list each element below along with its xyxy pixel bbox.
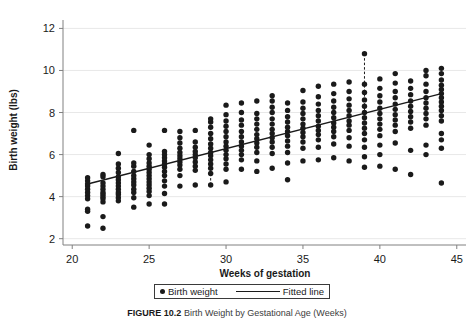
data-point bbox=[100, 225, 105, 230]
figure-container: 24681012 202530354045 Birth weight (lbs)… bbox=[0, 0, 474, 319]
data-point bbox=[269, 116, 274, 121]
data-point bbox=[423, 73, 428, 78]
legend-item-fitted-line: Fitted line bbox=[236, 287, 324, 297]
data-point bbox=[300, 88, 305, 93]
y-axis-label: Birth weight (lbs) bbox=[8, 89, 19, 171]
data-point bbox=[269, 98, 274, 103]
data-point bbox=[85, 175, 90, 180]
data-point bbox=[393, 117, 398, 122]
legend-line-icon bbox=[236, 291, 280, 292]
data-point bbox=[393, 71, 398, 76]
data-point bbox=[408, 92, 413, 97]
data-point bbox=[316, 101, 321, 106]
data-point bbox=[146, 201, 151, 206]
y-tick-2: 2 bbox=[49, 233, 55, 245]
data-point bbox=[239, 134, 244, 139]
y-tick-8: 8 bbox=[49, 107, 55, 119]
x-tick-20: 20 bbox=[66, 253, 78, 265]
data-point bbox=[346, 89, 351, 94]
y-axis-ticks: 24681012 bbox=[43, 22, 63, 244]
data-point bbox=[408, 172, 413, 177]
data-point bbox=[100, 172, 105, 177]
data-point bbox=[269, 110, 274, 115]
data-point bbox=[393, 140, 398, 145]
data-point bbox=[131, 204, 136, 209]
y-tick-12: 12 bbox=[43, 22, 55, 34]
data-point bbox=[223, 102, 228, 107]
data-point bbox=[423, 68, 428, 73]
data-point bbox=[377, 76, 382, 81]
data-point bbox=[146, 142, 151, 147]
data-point bbox=[423, 106, 428, 111]
data-point bbox=[131, 160, 136, 165]
x-axis-label: Weeks of gestation bbox=[220, 268, 311, 279]
data-point bbox=[362, 145, 367, 150]
data-point bbox=[408, 148, 413, 153]
data-point bbox=[131, 195, 136, 200]
data-point bbox=[162, 201, 167, 206]
data-point bbox=[393, 80, 398, 85]
data-point bbox=[316, 94, 321, 99]
data-point bbox=[85, 223, 90, 228]
data-point bbox=[393, 95, 398, 100]
data-point bbox=[193, 145, 198, 150]
data-point bbox=[423, 122, 428, 127]
data-point bbox=[300, 139, 305, 144]
data-point bbox=[254, 150, 259, 155]
data-point bbox=[393, 129, 398, 134]
caption-label: FIGURE 10.2 bbox=[127, 308, 181, 318]
data-point bbox=[223, 118, 228, 123]
chart-legend: Birth weight Fitted line bbox=[154, 284, 330, 299]
data-point bbox=[223, 134, 228, 139]
data-point bbox=[331, 105, 336, 110]
y-tick-6: 6 bbox=[49, 149, 55, 161]
data-point bbox=[285, 177, 290, 182]
data-point bbox=[269, 121, 274, 126]
axis-lines bbox=[63, 20, 466, 245]
data-point bbox=[346, 118, 351, 123]
data-point bbox=[377, 116, 382, 121]
x-tick-30: 30 bbox=[220, 253, 232, 265]
data-point bbox=[177, 183, 182, 188]
data-point bbox=[346, 158, 351, 163]
data-point bbox=[423, 116, 428, 121]
data-point bbox=[285, 119, 290, 124]
data-point bbox=[85, 207, 90, 212]
data-point bbox=[362, 120, 367, 125]
legend-label-birth-weight: Birth weight bbox=[168, 287, 218, 297]
data-point bbox=[346, 108, 351, 113]
data-point bbox=[223, 179, 228, 184]
data-point bbox=[423, 142, 428, 147]
data-point bbox=[177, 129, 182, 134]
data-point bbox=[193, 128, 198, 133]
gridlines bbox=[63, 28, 466, 238]
data-point bbox=[208, 125, 213, 130]
data-point bbox=[116, 151, 121, 156]
data-point bbox=[285, 160, 290, 165]
data-point bbox=[393, 107, 398, 112]
data-point bbox=[162, 128, 167, 133]
x-axis-ticks: 202530354045 bbox=[66, 245, 463, 265]
data-point bbox=[254, 98, 259, 103]
data-point bbox=[285, 100, 290, 105]
data-point bbox=[223, 112, 228, 117]
data-point bbox=[239, 157, 244, 162]
data-point bbox=[269, 105, 274, 110]
data-point bbox=[408, 114, 413, 119]
data-point bbox=[377, 86, 382, 91]
data-point bbox=[423, 100, 428, 105]
data-point bbox=[162, 149, 167, 154]
data-point bbox=[439, 82, 444, 87]
data-point bbox=[285, 143, 290, 148]
data-point bbox=[300, 121, 305, 126]
data-point bbox=[116, 161, 121, 166]
data-point bbox=[439, 180, 444, 185]
data-point bbox=[439, 113, 444, 118]
data-point bbox=[239, 100, 244, 105]
data-point bbox=[316, 157, 321, 162]
data-point bbox=[162, 178, 167, 183]
data-point bbox=[408, 119, 413, 124]
data-point bbox=[377, 111, 382, 116]
data-point bbox=[331, 115, 336, 120]
data-point bbox=[254, 116, 259, 121]
